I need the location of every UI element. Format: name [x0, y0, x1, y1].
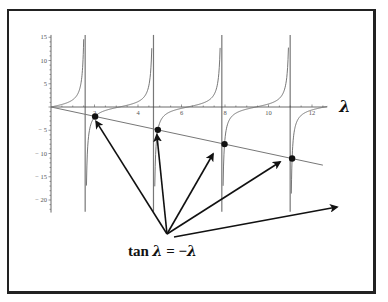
- tan-curve-branch-1: [51, 39, 84, 107]
- intersection-point-3: [221, 141, 227, 147]
- x-tick-label: 10: [265, 109, 272, 116]
- y-tick-label: 10: [41, 57, 48, 64]
- x-tick-label: 4: [136, 109, 140, 116]
- y-tick-label: − 15: [35, 173, 47, 180]
- equation-equals-minus: = −: [162, 243, 187, 259]
- equation-lambda-rhs: λ: [187, 243, 197, 259]
- x-axis-label-lambda: λ: [338, 97, 350, 116]
- x-tick-label: 8: [223, 109, 226, 116]
- y-tick-label: − 20: [35, 196, 47, 203]
- y-tick-label: − 10: [35, 150, 47, 157]
- intersection-point-2: [155, 127, 161, 133]
- y-tick-label: − 5: [38, 126, 47, 133]
- equation-lambda-lhs: λ: [153, 243, 163, 259]
- arrow-3: [167, 154, 213, 234]
- equation-label: tan λ = −λ: [128, 243, 197, 260]
- intersection-point-4: [289, 155, 295, 161]
- intersection-point-1: [92, 113, 98, 119]
- minus-lambda-line: [51, 107, 323, 165]
- tan-curve-branch-4: [223, 48, 288, 186]
- tan-curve-branch-3: [155, 48, 220, 186]
- arrow-5: [174, 207, 337, 237]
- equation-tan: tan: [128, 243, 149, 259]
- y-tick-label: 5: [44, 80, 47, 87]
- y-tick-label: 15: [41, 33, 48, 40]
- x-tick-label: 6: [180, 109, 184, 116]
- tan-curve-branch-5: [291, 106, 327, 193]
